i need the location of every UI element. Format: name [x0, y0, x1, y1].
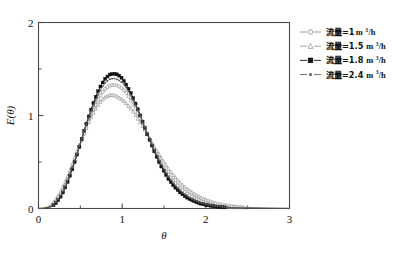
series-marker — [210, 204, 212, 206]
chart-figure: 0123012θE(θ)流量=1 m3/h流量=1.5 m3/h流量=1.8 m… — [0, 0, 406, 258]
x-tick-label: 2 — [203, 213, 209, 225]
series-marker — [139, 115, 141, 117]
series-marker — [67, 180, 69, 182]
plot-frame — [39, 23, 290, 209]
series-marker — [109, 78, 111, 80]
series-marker — [69, 173, 71, 175]
x-axis-title: θ — [161, 229, 167, 241]
series-marker — [224, 206, 226, 208]
series-marker — [53, 204, 55, 206]
legend: 流量=1 m3/h流量=1.5 m3/h流量=1.8 m3/h流量=2.4 m3… — [300, 27, 386, 80]
legend-unit-base: m — [366, 42, 373, 51]
series-marker — [71, 167, 73, 169]
legend-marker-triangle-open — [308, 43, 313, 48]
series-marker — [114, 78, 116, 80]
series-marker — [93, 105, 95, 107]
series-marker — [120, 76, 123, 79]
series-marker — [78, 145, 80, 147]
legend-marker-circle-open — [308, 30, 312, 34]
series-marker — [158, 159, 160, 161]
series-2 — [39, 72, 290, 209]
series-marker — [127, 95, 130, 98]
legend-item-1[interactable]: 流量=1.5 m3/h — [300, 41, 386, 51]
series-marker — [97, 98, 100, 101]
series-marker — [214, 205, 216, 207]
series-marker — [95, 99, 97, 101]
series-marker — [130, 95, 132, 97]
series-marker — [189, 197, 191, 199]
series-marker — [83, 131, 85, 133]
series-marker — [125, 87, 127, 89]
series-marker — [107, 80, 109, 82]
legend-unit-tail: /h — [378, 42, 386, 51]
legend-label: 流量=1.8 — [326, 55, 364, 65]
series-marker — [156, 154, 158, 156]
y-axis-title: E(θ) — [4, 105, 17, 126]
series-marker — [196, 200, 198, 202]
series-marker — [132, 100, 134, 102]
y-tick-label: 0 — [28, 203, 34, 215]
series-marker — [193, 199, 195, 201]
series-marker — [182, 192, 184, 194]
series-marker — [104, 82, 106, 84]
series-marker — [123, 84, 125, 86]
series-marker — [144, 127, 146, 129]
series-marker — [137, 110, 139, 112]
x-tick-label: 3 — [287, 213, 293, 225]
series-marker — [149, 138, 151, 140]
series-marker — [160, 164, 162, 166]
series-marker — [76, 153, 78, 155]
series-marker — [226, 206, 228, 208]
series-marker — [125, 91, 128, 94]
series-marker — [221, 206, 223, 208]
series-marker — [135, 104, 137, 106]
series-marker — [175, 185, 177, 187]
series-3 — [39, 78, 290, 209]
legend-unit-base: m — [356, 28, 363, 37]
series-marker — [191, 198, 193, 200]
series-marker — [184, 194, 186, 196]
series-marker — [60, 195, 62, 197]
svg-text:E(θ): E(θ) — [4, 105, 17, 126]
series-line — [39, 78, 290, 208]
series-marker — [200, 202, 202, 204]
series-marker — [57, 198, 59, 200]
legend-unit-base: m — [366, 71, 373, 80]
series-marker — [228, 206, 230, 208]
legend-unit-tail: /h — [378, 71, 386, 80]
series-marker — [118, 80, 120, 82]
series-marker — [151, 143, 153, 145]
series-marker — [186, 195, 188, 197]
series-marker — [81, 138, 83, 140]
series-marker — [122, 89, 125, 92]
series-marker — [153, 149, 155, 151]
series-marker — [121, 81, 123, 83]
series-1 — [39, 93, 290, 208]
series-marker — [74, 160, 76, 162]
series-marker — [55, 201, 57, 203]
x-tick-label: 0 — [36, 213, 42, 225]
legend-item-0[interactable]: 流量=1 m3/h — [300, 27, 376, 37]
legend-label: 流量=1.5 — [326, 41, 364, 51]
series-marker — [207, 204, 209, 206]
series-marker — [165, 172, 167, 174]
legend-unit-tail: /h — [378, 56, 386, 65]
series-marker — [172, 182, 174, 184]
series-0 — [39, 83, 290, 208]
series-marker — [205, 203, 207, 205]
series-marker — [99, 94, 102, 97]
series-marker — [219, 206, 221, 208]
series-marker — [212, 205, 214, 207]
series-marker — [170, 179, 172, 181]
series-marker — [86, 124, 88, 126]
y-tick-label: 1 — [28, 110, 34, 122]
series-marker — [90, 111, 92, 113]
series-marker — [168, 176, 170, 178]
series-marker — [163, 168, 165, 170]
legend-item-3[interactable]: 流量=2.4 m3/h — [300, 69, 386, 79]
series-marker — [100, 89, 102, 91]
legend-item-2[interactable]: 流量=1.8 m3/h — [300, 55, 386, 65]
series-line — [39, 74, 290, 209]
series-line — [39, 85, 290, 209]
chart-svg: 0123012θE(θ)流量=1 m3/h流量=1.5 m3/h流量=1.8 m… — [0, 0, 406, 258]
